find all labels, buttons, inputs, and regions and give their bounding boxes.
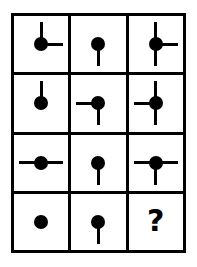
dot-icon: [91, 37, 105, 51]
question-mark-r4c3: ?: [129, 194, 183, 250]
matrix-cell-r2c2: [71, 75, 125, 131]
dot-icon: [149, 96, 163, 110]
dot-icon: [149, 156, 163, 170]
matrix-cell-r1c3: [129, 16, 183, 72]
puzzle-grid: ?: [14, 16, 183, 250]
dot-icon: [34, 37, 48, 51]
matrix-cell-r4c1: [14, 194, 68, 250]
matrix-cell-r4c3: ?: [129, 194, 183, 250]
matrix-cell-r2c3: [129, 75, 183, 131]
matrix-cell-r1c1: [14, 16, 68, 72]
dot-icon: [34, 156, 48, 170]
dot-icon: [34, 215, 48, 229]
matrix-cell-r3c2: [71, 135, 125, 191]
dot-icon: [91, 215, 105, 229]
dot-icon: [91, 156, 105, 170]
dot-icon: [149, 37, 163, 51]
dot-icon: [91, 96, 105, 110]
matrix-cell-r3c1: [14, 135, 68, 191]
matrix-cell-r4c2: [71, 194, 125, 250]
puzzle-frame: ?: [11, 13, 186, 253]
matrix-cell-r2c1: [14, 75, 68, 131]
matrix-cell-r1c2: [71, 16, 125, 72]
matrix-cell-r3c3: [129, 135, 183, 191]
dot-icon: [34, 96, 48, 110]
